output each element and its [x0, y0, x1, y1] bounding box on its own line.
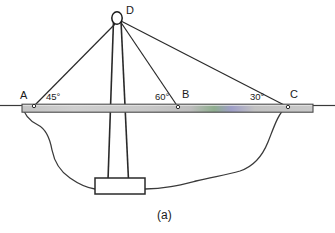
mast-base-box: [95, 178, 145, 194]
angle-label-at-B: 60°: [155, 92, 169, 102]
figure-caption: (a): [157, 209, 172, 221]
point-label-B: B: [182, 89, 189, 100]
point-marker-B: [176, 105, 179, 108]
ship-angle-diagram: [0, 0, 335, 233]
ship-hull-outline: [23, 106, 312, 189]
point-marker-C: [286, 105, 289, 108]
angle-label-at-A: 45°: [46, 92, 60, 102]
masthead-ring-icon: [112, 12, 122, 24]
point-label-A: A: [20, 90, 27, 101]
point-label-D: D: [126, 5, 134, 16]
figure-container: A B C D 45° 60° 30° (a): [0, 0, 335, 233]
mast-spar-left: [108, 21, 114, 180]
angle-label-at-C: 30°: [250, 92, 264, 102]
point-label-C: C: [290, 89, 298, 100]
mast-spar-right: [121, 21, 129, 180]
point-marker-A: [32, 104, 35, 107]
